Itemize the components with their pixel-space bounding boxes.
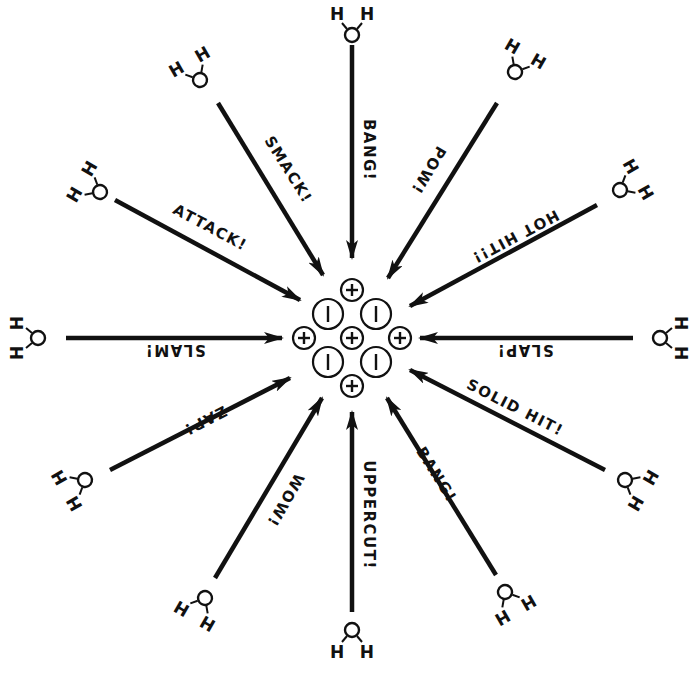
hydrogen-atom: H xyxy=(7,316,27,330)
water-molecule: HH xyxy=(608,457,663,514)
diagram-canvas: BANG!HHSMACK!HHPOW!HHATTACK!HHHOT HIT!!H… xyxy=(0,0,699,673)
oxygen-atom xyxy=(345,28,359,42)
hydrogen-atom: H xyxy=(191,42,213,66)
cation xyxy=(341,375,363,397)
attack-label: WOW! xyxy=(263,470,308,530)
attack-label: SLAP! xyxy=(496,341,553,359)
attack-8: ZAP!HH xyxy=(47,378,290,515)
hydrogen-atom: H xyxy=(77,157,101,179)
anion xyxy=(361,347,391,377)
water-molecule: HH xyxy=(653,316,691,360)
hydrogen-atom: H xyxy=(170,596,192,620)
hydrogen-atom: H xyxy=(638,466,662,488)
hydrogen-atom: H xyxy=(491,605,513,629)
anion xyxy=(361,299,391,329)
attack-1: BANG!HH xyxy=(330,4,378,258)
hydrogen-atom: H xyxy=(633,181,657,203)
arrow xyxy=(410,205,597,306)
water-molecule: HH xyxy=(170,581,227,636)
attack-label: ZAP! xyxy=(181,402,230,439)
cation xyxy=(341,327,363,349)
oxygen-atom xyxy=(31,331,45,345)
water-molecule: HH xyxy=(165,42,222,97)
arrow xyxy=(410,370,605,470)
attack-label: SLAM! xyxy=(144,341,205,359)
oxygen-atom xyxy=(505,62,524,81)
cation xyxy=(341,279,363,301)
attack-label: BANG! xyxy=(412,444,460,506)
water-molecule: HH xyxy=(603,155,658,212)
hydrogen-atom: H xyxy=(62,492,86,514)
hydrogen-atom: H xyxy=(47,466,71,488)
anion xyxy=(313,347,343,377)
hydrogen-atom: H xyxy=(165,57,187,81)
attack-7: SLAP!HH xyxy=(420,316,691,360)
oxygen-atom xyxy=(653,331,667,345)
hydrogen-atom: H xyxy=(671,346,691,360)
hydrogen-atom: H xyxy=(360,4,374,24)
hydrogen-atom: H xyxy=(501,34,523,58)
water-molecule: HH xyxy=(330,623,374,661)
hydrogen-atom: H xyxy=(618,155,642,177)
hydrogen-atom: H xyxy=(517,590,539,614)
hydrogen-atom: H xyxy=(62,183,86,205)
oxygen-atom xyxy=(190,70,209,89)
attack-6: SLAM!HH xyxy=(7,316,282,360)
attack-label: HOT HIT!! xyxy=(468,206,561,267)
oxygen-atom xyxy=(495,582,514,601)
attack-11: BANG!HH xyxy=(387,398,540,630)
hydration-diagram: BANG!HHSMACK!HHPOW!HHATTACK!HHHOT HIT!!H… xyxy=(0,0,699,673)
water-molecule: HH xyxy=(492,34,549,89)
hydrogen-atom: H xyxy=(623,492,647,514)
ion-cluster xyxy=(293,279,411,397)
oxygen-atom xyxy=(615,470,634,489)
attack-label: SMACK! xyxy=(261,133,316,207)
hydrogen-atom: H xyxy=(7,346,27,360)
hydrogen-atom: H xyxy=(196,611,218,635)
cation xyxy=(293,327,315,349)
oxygen-atom xyxy=(195,588,214,607)
hydrogen-atom: H xyxy=(671,316,691,330)
anion xyxy=(313,299,343,329)
oxygen-atom xyxy=(90,182,109,201)
hydrogen-atom: H xyxy=(330,4,344,24)
attack-label: BANG! xyxy=(360,119,378,181)
attack-label: UPPERCUT! xyxy=(360,460,378,570)
water-molecule: HH xyxy=(62,157,117,214)
attack-label: ATTACK! xyxy=(170,200,251,254)
water-molecule: HH xyxy=(7,316,45,360)
attack-12: UPPERCUT!HH xyxy=(330,412,378,661)
oxygen-atom xyxy=(75,470,94,489)
arrow xyxy=(215,398,322,578)
attack-5: HOT HIT!!HH xyxy=(410,155,658,306)
water-molecule: HH xyxy=(482,575,539,630)
hydrogen-atom: H xyxy=(527,49,549,73)
water-molecule: HH xyxy=(47,457,102,514)
oxygen-atom xyxy=(345,623,359,637)
oxygen-atom xyxy=(610,180,629,199)
hydrogen-atom: H xyxy=(330,641,344,661)
cation xyxy=(389,327,411,349)
hydrogen-atom: H xyxy=(360,641,374,661)
water-molecule: HH xyxy=(330,4,374,42)
